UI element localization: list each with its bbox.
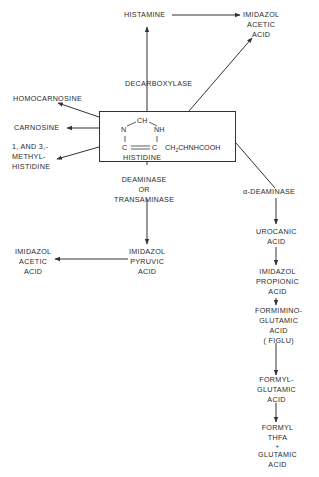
formylglutamic-acid-node: FORMYL- GLUTAMIC ACID — [257, 375, 296, 405]
histamine-node: HISTAMINE — [124, 10, 165, 20]
ring-c-right: C — [152, 143, 157, 152]
imidazol-acetic-acid-top-node: IMIDAZOL ACETIC ACID — [243, 10, 279, 40]
methylhistidine-node: 1, AND 3,- METHYL- HISTIDINE — [12, 142, 50, 172]
imidazol-propionic-acid-node: IMIDAZOL PROPIONIC ACID — [256, 267, 299, 297]
histidine-box — [99, 111, 236, 162]
ring-nh: NH — [154, 125, 164, 134]
homocarnosine-node: HOMOCARNOSINE — [13, 94, 82, 104]
imidazol-acetic-acid-left-node: IMIDAZOL ACETIC ACID — [15, 247, 51, 277]
ring-ch: CH — [137, 116, 147, 125]
urocanic-acid-node: UROCANIC ACID — [256, 227, 297, 247]
decarboxylase-label: DECARBOXYLASE — [125, 79, 192, 89]
ring-n: N — [121, 125, 126, 134]
figlu-node: FORMIMINO- GLUTAMIC ACID ( FIGLU) — [255, 306, 302, 346]
imidazol-pyruvic-acid-node: IMIDAZOL PYRUVIC ACID — [129, 247, 165, 277]
histidine-label: HISTIDINE — [123, 153, 161, 162]
ring-c-left: C — [122, 143, 127, 152]
carnosine-node: CARNOSINE — [14, 123, 59, 133]
side-chain: CH2CHNHCOOH — [165, 143, 221, 153]
alpha-deaminase-label: α-DEAMINASE — [243, 187, 295, 197]
deaminase-transaminase-label: DEAMINASE OR TRANSAMINASE — [114, 175, 174, 205]
formyl-thfa-glutamic-acid-node: FORMYL THFA + GLUTAMIC ACID — [258, 423, 297, 470]
